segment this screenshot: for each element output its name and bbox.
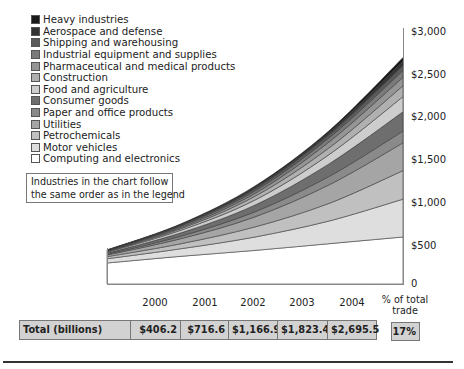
year-label-2004: 2004 xyxy=(339,297,364,308)
legend-label: Aerospace and defense xyxy=(43,26,162,37)
legend-item-industrial-equipment: Industrial equipment and supplies xyxy=(31,49,235,61)
y-tick-2500: $2,500 xyxy=(411,70,446,80)
y-tick-2000: $2,000 xyxy=(411,112,446,122)
pct-header-line-1: % of total xyxy=(382,294,428,305)
legend-item-consumer-goods: Consumer goods xyxy=(31,95,235,107)
legend-label: Motor vehicles xyxy=(43,142,117,153)
total-2004: $2,695.5 xyxy=(327,320,377,340)
legend: Heavy industries Aerospace and defense S… xyxy=(31,14,235,165)
totals-row: Total (billions) $406.2 $716.6 $1,166.9 … xyxy=(19,320,377,340)
legend-item-utilities: Utilities xyxy=(31,118,235,130)
total-2001: $716.6 xyxy=(180,320,229,340)
legend-swatch xyxy=(31,15,40,24)
total-2003: $1,823.4 xyxy=(277,320,328,340)
year-label-2001: 2001 xyxy=(192,297,217,308)
legend-label: Paper and office products xyxy=(43,107,173,118)
pct-header-line-2: trade xyxy=(382,305,428,316)
year-label-2000: 2000 xyxy=(142,297,167,308)
legend-swatch xyxy=(31,50,40,59)
legend-swatch xyxy=(31,120,40,129)
note-line-1: Industries in the chart follow xyxy=(31,176,172,189)
legend-swatch xyxy=(31,96,40,105)
legend-item-construction: Construction xyxy=(31,72,235,84)
y-tick-0: 0 xyxy=(411,279,417,289)
y-tick-1000: $1,000 xyxy=(411,198,446,208)
legend-swatch xyxy=(31,73,40,82)
y-tick-500: $500 xyxy=(411,241,436,251)
legend-swatch xyxy=(31,27,40,36)
bottom-rule xyxy=(3,361,453,363)
legend-label: Consumer goods xyxy=(43,95,129,106)
legend-label: Petrochemicals xyxy=(43,130,120,141)
legend-item-heavy-industries: Heavy industries xyxy=(31,14,235,26)
legend-swatch xyxy=(31,38,40,47)
pct-total-trade-header: % of total trade xyxy=(382,294,428,316)
legend-item-petrochemicals: Petrochemicals xyxy=(31,130,235,142)
legend-label: Pharmaceutical and medical products xyxy=(43,61,235,72)
legend-order-note: Industries in the chart follow the same … xyxy=(26,173,173,203)
legend-item-pharmaceutical: Pharmaceutical and medical products xyxy=(31,60,235,72)
legend-item-motor-vehicles: Motor vehicles xyxy=(31,142,235,154)
totals-label: Total (billions) xyxy=(19,320,131,340)
legend-item-food-agriculture: Food and agriculture xyxy=(31,84,235,96)
y-tick-1500: $1,500 xyxy=(411,155,446,165)
legend-item-paper-office: Paper and office products xyxy=(31,107,235,119)
year-label-2002: 2002 xyxy=(240,297,265,308)
legend-label: Computing and electronics xyxy=(43,153,180,164)
legend-swatch xyxy=(31,154,40,163)
legend-swatch xyxy=(31,62,40,71)
year-label-2003: 2003 xyxy=(289,297,314,308)
legend-item-computing-electronics: Computing and electronics xyxy=(31,153,235,165)
legend-label: Heavy industries xyxy=(43,14,129,25)
legend-swatch xyxy=(31,85,40,94)
y-tick-3000: $3,000 xyxy=(411,27,446,37)
legend-swatch xyxy=(31,131,40,140)
legend-label: Utilities xyxy=(43,119,81,130)
note-line-2: the same order as in the legend xyxy=(31,189,172,202)
legend-label: Food and agriculture xyxy=(43,84,148,95)
legend-label: Industrial equipment and supplies xyxy=(43,49,217,60)
legend-item-shipping-warehousing: Shipping and warehousing xyxy=(31,37,235,49)
legend-label: Shipping and warehousing xyxy=(43,37,178,48)
legend-swatch xyxy=(31,108,40,117)
legend-swatch xyxy=(31,143,40,152)
legend-label: Construction xyxy=(43,72,108,83)
total-2000: $406.2 xyxy=(130,320,181,340)
total-2002: $1,166.9 xyxy=(228,320,278,340)
pct-total-trade-value: 17% xyxy=(391,322,420,341)
legend-item-aerospace-defense: Aerospace and defense xyxy=(31,26,235,38)
